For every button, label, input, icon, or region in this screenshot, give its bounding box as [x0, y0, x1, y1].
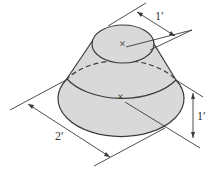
bottom-dim-arrow-end [104, 152, 110, 157]
height-dim-arrow-bottom [191, 132, 195, 138]
bottom-dim-arrow-start [28, 104, 34, 109]
bottom-center-marker: × [117, 90, 124, 104]
top-center-marker: × [119, 37, 126, 51]
top-dim-arrow-start [137, 12, 143, 17]
height-label: 1′ [197, 109, 206, 123]
top-diameter-label: 1′ [155, 9, 164, 23]
height-dim-arrow-top [191, 93, 195, 99]
frustum-diagram: × × 1′ 2′ 1′ [0, 0, 211, 171]
bottom-diameter-label: 2′ [55, 129, 64, 143]
bottom-dim-extension-left [10, 80, 66, 110]
